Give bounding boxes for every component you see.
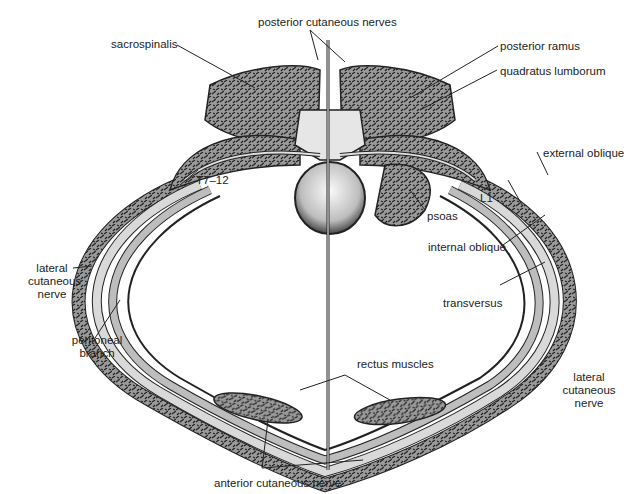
label-rectus-muscles: rectus muscles [357,358,434,371]
label-line: nerve [28,288,76,301]
label-posterior-ramus: posterior ramus [500,40,580,53]
label-lateral-cutaneous-nerve-left: lateral cutaneous nerve [28,262,76,301]
label-line: cutaneous [562,384,616,397]
label-lateral-cutaneous-nerve-right: lateral cutaneous nerve [562,371,616,410]
label-line: nerve [562,397,616,410]
label-anterior-cutaneous-nerve: anterior cutaneous nerve [214,477,341,490]
label-l1: L1 [480,192,493,205]
label-line: branch [68,347,126,360]
label-posterior-cutaneous-nerves: posterior cutaneous nerves [258,16,397,29]
label-psoas: psoas [427,210,458,223]
label-transversus: transversus [443,297,502,310]
label-t7-12: T7–12 [196,174,229,187]
label-line: lateral [562,371,616,384]
anatomy-diagram: posterior cutaneous nerves sacrospinalis… [0,0,630,494]
label-peritoneal-branch: peritoneal branch [68,334,126,360]
label-sacrospinalis: sacrospinalis [111,38,177,51]
vertebra [295,110,365,234]
label-line: peritoneal [68,334,126,347]
label-internal-oblique: internal oblique [428,241,506,254]
label-quadratus-lumborum: quadratus lumborum [500,65,605,78]
label-line: cutaneous [28,275,76,288]
label-external-oblique: external oblique [543,147,624,160]
label-line: lateral [28,262,76,275]
